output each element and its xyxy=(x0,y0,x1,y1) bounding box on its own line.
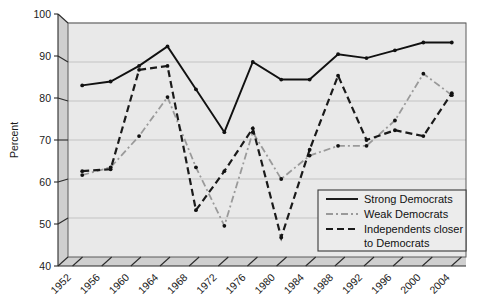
data-point xyxy=(336,144,340,148)
data-point xyxy=(222,169,226,173)
data-point xyxy=(421,134,425,138)
data-point xyxy=(137,64,141,68)
data-point xyxy=(166,45,170,49)
data-point xyxy=(251,60,255,64)
data-point xyxy=(166,64,170,68)
data-point xyxy=(279,177,283,181)
data-point xyxy=(80,173,84,177)
data-point xyxy=(308,78,312,82)
data-point xyxy=(393,48,397,52)
data-point xyxy=(166,95,170,99)
plot-bottom-wall xyxy=(58,257,466,266)
y-tick-label-90: 90 xyxy=(39,50,51,62)
data-point xyxy=(194,208,198,212)
data-point xyxy=(251,130,255,134)
data-point xyxy=(222,224,226,228)
data-point xyxy=(393,128,397,132)
chart-container: 405060708090100 195219561960196419681972… xyxy=(0,0,482,306)
legend-label-2: Weak Democrats xyxy=(364,208,449,220)
data-point xyxy=(365,138,369,142)
data-point xyxy=(308,148,312,152)
data-point xyxy=(421,72,425,76)
data-point xyxy=(450,41,454,45)
data-point xyxy=(80,169,84,173)
data-point xyxy=(308,154,312,158)
data-point xyxy=(365,56,369,60)
legend-label-1: Strong Democrats xyxy=(364,193,453,205)
data-point xyxy=(194,165,198,169)
data-point xyxy=(80,84,84,88)
data-point xyxy=(421,41,425,45)
chart-legend: Strong DemocratsWeak DemocratsIndependen… xyxy=(318,190,466,251)
data-point xyxy=(336,74,340,78)
y-tick-label-100: 100 xyxy=(33,8,51,20)
data-point xyxy=(365,144,369,148)
y-axis-title: Percent xyxy=(8,122,20,158)
data-point xyxy=(137,134,141,138)
data-point xyxy=(279,236,283,240)
y-tick-label-40: 40 xyxy=(39,260,51,272)
legend-label-4: to Democrats xyxy=(364,237,430,249)
data-point xyxy=(109,167,113,171)
data-point xyxy=(279,78,283,82)
data-point xyxy=(137,68,141,72)
data-point xyxy=(222,130,226,134)
data-point xyxy=(251,126,255,130)
y-tick-label-70: 70 xyxy=(39,134,51,146)
y-tick-label-60: 60 xyxy=(39,176,51,188)
data-point xyxy=(194,87,198,91)
data-point xyxy=(393,119,397,123)
data-point xyxy=(336,52,340,56)
legend-label-3: Independents closer xyxy=(364,223,463,235)
data-point xyxy=(109,80,113,84)
y-tick-label-50: 50 xyxy=(39,218,51,230)
y-tick-label-80: 80 xyxy=(39,92,51,104)
data-point xyxy=(450,91,454,95)
line-chart: 405060708090100 195219561960196419681972… xyxy=(0,0,482,306)
